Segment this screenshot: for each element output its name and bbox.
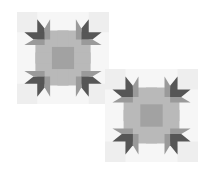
- corner-square: [17, 12, 37, 32]
- corner-square: [105, 69, 125, 89]
- quilt-pattern-canvas: [0, 0, 209, 174]
- center-square: [52, 47, 74, 69]
- corner-square: [89, 12, 109, 32]
- corner-square: [17, 84, 37, 104]
- quilt-block-bottom-right: [105, 69, 198, 162]
- corner-square: [105, 142, 125, 162]
- center-square: [140, 104, 162, 126]
- corner-square: [178, 142, 198, 162]
- corner-square: [178, 69, 198, 89]
- quilt-block-top-left: [17, 12, 109, 104]
